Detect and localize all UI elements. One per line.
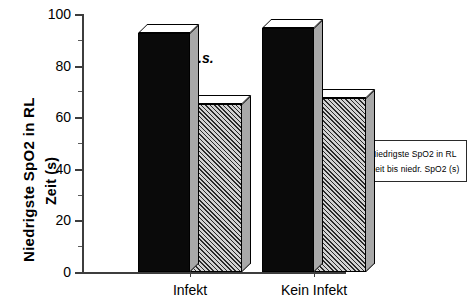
x-tick xyxy=(314,272,315,277)
y-tick-minor xyxy=(78,195,82,196)
y-tick-label: 20 xyxy=(55,212,71,228)
bar-top-face xyxy=(314,89,375,98)
x-tick-label: Infekt xyxy=(173,282,207,298)
bar-chart: Niedrigste SpO2 in RL Zeit (s) 020406080… xyxy=(0,0,474,306)
y-tick-minor xyxy=(78,246,82,247)
y-tick-label: 0 xyxy=(63,264,71,280)
y-tick-minor xyxy=(78,143,82,144)
y-tick-major xyxy=(75,169,82,171)
bar-side-face xyxy=(314,20,323,272)
y-tick-label: 40 xyxy=(55,161,71,177)
y-tick-label: 60 xyxy=(55,109,71,125)
y-tick-label: 100 xyxy=(48,6,71,22)
bar-side-face xyxy=(190,25,199,272)
bar-top-face xyxy=(262,19,323,28)
bar-front-face xyxy=(262,28,314,272)
y-tick-major xyxy=(75,117,82,119)
y-tick-minor xyxy=(78,40,82,41)
legend-label: Zeit bis niedr. SpO2 (s) xyxy=(370,164,459,174)
x-tick xyxy=(190,272,191,277)
y-tick-label: 80 xyxy=(55,58,71,74)
y-tick-major xyxy=(75,66,82,68)
bar xyxy=(262,28,314,272)
y-tick-major xyxy=(75,272,82,274)
bar-side-face xyxy=(242,96,251,272)
bar-side-face xyxy=(366,89,375,272)
plot-area: 020406080100 InfektKein Infekt xyxy=(82,14,346,272)
x-tick-label: Kein Infekt xyxy=(281,282,347,298)
y-axis-title-primary: Niedrigste SpO2 in RL xyxy=(20,97,37,262)
y-axis-line xyxy=(82,14,84,272)
bar-top-face xyxy=(190,95,251,104)
y-tick-major xyxy=(75,14,82,16)
bar-front-face xyxy=(138,33,190,272)
bar xyxy=(138,33,190,272)
x-axis-line xyxy=(82,272,346,274)
bar-top-face xyxy=(138,24,199,33)
legend-label: Niedrigste SpO2 in RL xyxy=(370,149,457,159)
y-tick-minor xyxy=(78,91,82,92)
y-tick-major xyxy=(75,220,82,222)
